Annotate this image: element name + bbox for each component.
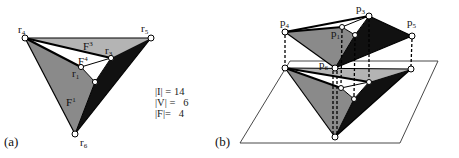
label-r5: r5 xyxy=(141,22,149,36)
label-r6: r6 xyxy=(80,136,88,150)
stat-row-v: |V| = 6 xyxy=(155,97,188,108)
label-p4: p4 xyxy=(280,16,290,30)
vertex-q3 xyxy=(367,80,372,85)
vertex-r6 xyxy=(72,131,78,137)
label-r4: r4 xyxy=(18,23,26,37)
stat-row-i: |I| = 14 xyxy=(155,86,188,97)
stat-row-f: |F|= 4 xyxy=(155,108,188,119)
vertex-inner xyxy=(92,79,97,84)
vertex-p5 xyxy=(409,33,415,39)
diagram-canvas: r4 r5 r3 r1 r6 F3 F4 F1 (a) xyxy=(0,0,459,158)
panel-b: p4 p3 p5 p1 p6 (b) xyxy=(215,2,438,149)
vertex-p6 xyxy=(332,65,338,71)
vertex-p2 xyxy=(353,33,358,38)
lower-complex xyxy=(285,68,411,137)
vertex-q5 xyxy=(408,66,414,72)
panel-a: r4 r5 r3 r1 r6 F3 F4 F1 (a) xyxy=(4,22,154,150)
label-p3: p3 xyxy=(356,2,366,16)
vertex-p1 xyxy=(340,25,345,30)
vertex-q6 xyxy=(332,134,338,140)
panel-b-caption: (b) xyxy=(215,134,230,149)
vertex-q1 xyxy=(339,86,344,91)
panel-a-caption: (a) xyxy=(4,134,18,149)
label-p5: p5 xyxy=(407,16,417,30)
vertex-q2 xyxy=(352,97,357,102)
stats-table: |I| = 14 |V| = 6 |F|= 4 xyxy=(155,86,188,119)
vertex-q4 xyxy=(282,65,288,71)
upper-complex xyxy=(285,16,412,68)
vertex-r5 xyxy=(148,35,154,41)
vertex-p3 xyxy=(366,13,372,19)
